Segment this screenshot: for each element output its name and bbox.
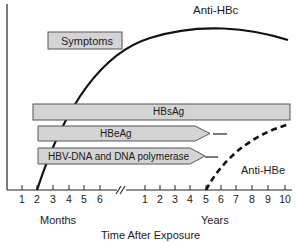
year-ticks bbox=[145, 185, 285, 190]
month-tick-6: 6 bbox=[97, 194, 103, 205]
year-tick-10: 10 bbox=[279, 194, 291, 205]
axis-break-icon bbox=[116, 186, 125, 194]
year-tick-4: 4 bbox=[187, 194, 193, 205]
symptoms-label: Symptoms bbox=[61, 36, 113, 47]
month-ticks bbox=[22, 185, 100, 190]
year-tick-5: 5 bbox=[203, 194, 209, 205]
year-tick-6: 6 bbox=[218, 194, 224, 205]
year-tick-3: 3 bbox=[172, 194, 178, 205]
hbv-dna-label: HBV-DNA and DNA polymerase bbox=[48, 152, 189, 162]
year-tick-7: 7 bbox=[233, 194, 239, 205]
hbeag-label: HBeAg bbox=[100, 129, 132, 139]
anti-hbe-label: Anti-HBe bbox=[241, 165, 285, 176]
month-tick-5: 5 bbox=[81, 194, 87, 205]
year-tick-1: 1 bbox=[142, 194, 148, 205]
anti-hbc-label: Anti-HBc bbox=[193, 5, 238, 17]
hbsag-label: HBsAg bbox=[153, 107, 184, 117]
month-tick-4: 4 bbox=[66, 194, 72, 205]
month-tick-3: 3 bbox=[50, 194, 56, 205]
year-tick-9: 9 bbox=[265, 194, 271, 205]
month-tick-2: 2 bbox=[34, 194, 40, 205]
months-label: Months bbox=[40, 215, 76, 226]
month-tick-1: 1 bbox=[19, 194, 25, 205]
x-axis-title: Time After Exposure bbox=[101, 230, 200, 241]
year-tick-2: 2 bbox=[157, 194, 163, 205]
hepatitis-b-timeline-diagram bbox=[0, 0, 296, 243]
years-label: Years bbox=[201, 215, 229, 226]
year-tick-8: 8 bbox=[249, 194, 255, 205]
